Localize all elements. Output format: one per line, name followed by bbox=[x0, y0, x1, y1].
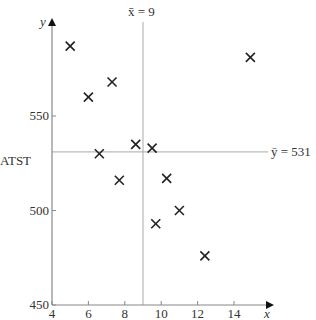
y-tick-label: 550 bbox=[30, 108, 50, 123]
data-point-marker bbox=[84, 93, 93, 102]
y-variable-name: ATST bbox=[0, 153, 31, 168]
data-point-marker bbox=[115, 176, 124, 185]
data-point-marker bbox=[151, 219, 160, 228]
data-point-marker bbox=[95, 149, 104, 158]
data-point-marker bbox=[108, 77, 117, 86]
x-tick-label: 10 bbox=[155, 306, 168, 320]
data-point-marker bbox=[66, 42, 75, 51]
data-point-marker bbox=[162, 174, 171, 183]
x-tick-label: 14 bbox=[228, 306, 242, 320]
x-tick-label: 4 bbox=[49, 306, 56, 320]
data-point-marker bbox=[148, 144, 157, 153]
x-tick-label: 12 bbox=[191, 306, 204, 320]
scatter-chart: 468101214450500550 y x ATST x̄ = 9 ȳ = 5… bbox=[0, 0, 316, 320]
ybar-annotation: ȳ = 531 bbox=[271, 144, 311, 159]
y-tick-label: 500 bbox=[30, 203, 50, 218]
data-point-marker bbox=[131, 140, 140, 149]
reference-lines bbox=[52, 22, 268, 305]
data-point-marker bbox=[200, 251, 209, 260]
xbar-annotation: x̄ = 9 bbox=[128, 4, 155, 19]
data-points bbox=[66, 42, 255, 261]
x-tick-label: 8 bbox=[122, 306, 129, 320]
y-tick-label: 450 bbox=[30, 297, 50, 312]
y-axis-label: y bbox=[38, 14, 46, 29]
axes bbox=[48, 18, 274, 309]
data-point-marker bbox=[246, 53, 255, 62]
ticks: 468101214450500550 bbox=[30, 108, 242, 320]
y-axis-arrow-icon bbox=[48, 18, 56, 26]
x-axis-label: x bbox=[263, 306, 270, 320]
x-tick-label: 6 bbox=[85, 306, 92, 320]
data-point-marker bbox=[175, 206, 184, 215]
